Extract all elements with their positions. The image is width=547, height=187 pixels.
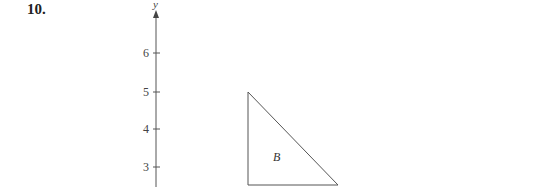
y-axis-arrow-icon	[153, 10, 159, 18]
y-axis-tick-label: 4	[143, 122, 149, 136]
coordinate-diagram: y 6543 B	[0, 0, 547, 187]
y-axis-ticks: 6543	[143, 46, 160, 174]
triangle-label: B	[273, 150, 281, 164]
y-axis-tick-label: 6	[143, 46, 149, 60]
triangle-b	[248, 92, 338, 185]
y-axis-tick-label: 5	[143, 85, 149, 99]
y-axis-tick-label: 3	[143, 160, 149, 174]
y-axis-label: y	[152, 0, 158, 10]
